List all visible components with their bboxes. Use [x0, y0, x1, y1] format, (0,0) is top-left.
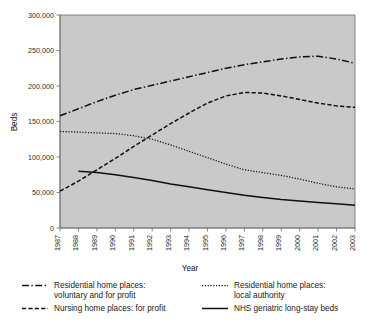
x-tick-label: 1991	[127, 235, 136, 251]
legend-label-line1: Residential home places:	[234, 281, 325, 290]
x-tick-label: 1997	[237, 235, 246, 251]
plot-background	[60, 15, 355, 228]
x-tick-label: 1993	[164, 235, 173, 251]
y-tick-label: 100,000	[28, 153, 54, 162]
y-tick-label: 200,000	[28, 82, 54, 91]
x-axis-title: Year	[182, 264, 199, 273]
x-tick-label: 2000	[293, 235, 302, 251]
x-tick-label: 1998	[256, 235, 265, 251]
beds-line-chart: 050,000100,000150,000200,000250,000300,0…	[0, 0, 378, 334]
x-tick-label: 2001	[311, 235, 320, 251]
y-tick-label: 50,000	[32, 188, 54, 197]
x-axis-tick-labels: 1987198819891990199119921993199419951996…	[53, 235, 357, 251]
chart-legend: Residential home places:voluntary and fo…	[22, 281, 338, 313]
legend-label-line2: local authority	[234, 291, 285, 300]
legend-label-line1: Nursing home places: for profit	[54, 304, 166, 313]
x-axis: 1987198819891990199119921993199419951996…	[53, 228, 357, 273]
y-axis-ticks	[57, 15, 61, 228]
legend-label-line2: voluntary and for profit	[54, 291, 136, 300]
y-tick-label: 0	[50, 224, 54, 233]
y-tick-label: 250,000	[28, 46, 54, 55]
x-axis-ticks	[60, 228, 355, 232]
x-tick-label: 1990	[108, 235, 117, 251]
x-tick-label: 1994	[182, 235, 191, 251]
x-tick-label: 1995	[201, 235, 210, 251]
x-tick-label: 1992	[145, 235, 154, 251]
x-tick-label: 1987	[53, 235, 62, 251]
y-tick-label: 300,000	[28, 11, 54, 20]
plot-area	[60, 15, 355, 228]
x-tick-label: 2002	[330, 235, 339, 251]
legend-label-line1: Residential home places:	[54, 281, 145, 290]
x-tick-label: 2003	[348, 235, 357, 251]
y-tick-label: 150,000	[28, 117, 54, 126]
x-tick-label: 1988	[71, 235, 80, 251]
y-axis-title: Beds	[10, 113, 19, 132]
y-axis-tick-labels: 050,000100,000150,000200,000250,000300,0…	[28, 11, 54, 233]
x-tick-label: 1989	[90, 235, 99, 251]
chart-container: 050,000100,000150,000200,000250,000300,0…	[0, 0, 378, 334]
legend-label-line1: NHS geriatric long-stay beds	[234, 304, 338, 313]
x-tick-label: 1999	[274, 235, 283, 251]
y-axis: 050,000100,000150,000200,000250,000300,0…	[10, 11, 60, 233]
x-tick-label: 1996	[219, 235, 228, 251]
